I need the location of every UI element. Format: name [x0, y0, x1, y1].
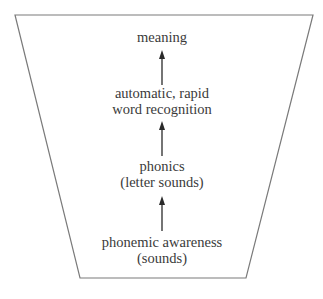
- stage-word-recognition-label-line2: word recognition: [112, 101, 212, 117]
- funnel-diagram: meaning automatic, rapid word recognitio…: [0, 0, 323, 299]
- arrow-up-icon: [159, 50, 165, 85]
- arrow-up-icon: [159, 196, 165, 231]
- stage-word-recognition-label-line1: automatic, rapid: [115, 85, 210, 101]
- stage-phonemic-awareness-label-line2: (sounds): [137, 250, 187, 267]
- stage-phonemic-awareness-label-line1: phonemic awareness: [102, 234, 223, 250]
- stage-meaning-label: meaning: [137, 29, 187, 45]
- stage-phonics-label-line1: phonics: [139, 158, 184, 174]
- arrow-up-icon: [159, 121, 165, 156]
- stage-phonics-label-line2: (letter sounds): [120, 174, 204, 191]
